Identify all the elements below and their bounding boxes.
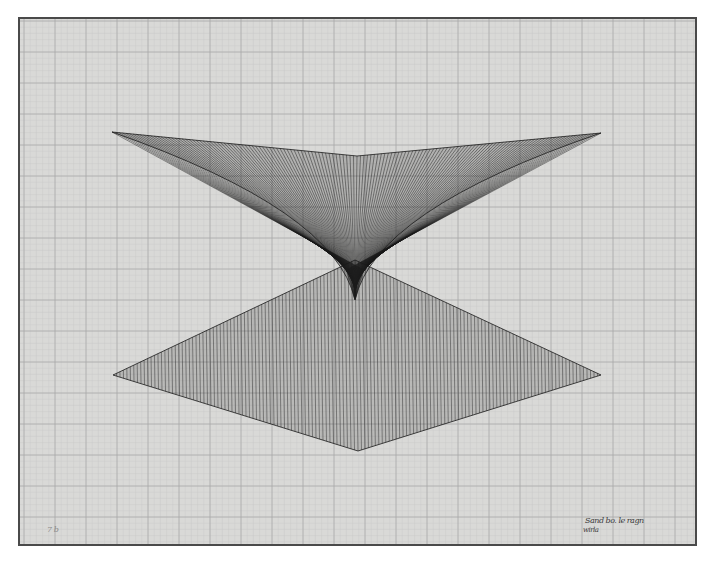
signature-line-2: wirla [583,526,599,534]
signature-line-1: Sand bo. le ragn [585,516,644,525]
corner-mark: 7 b [47,525,58,534]
artwork-canvas [0,0,709,565]
